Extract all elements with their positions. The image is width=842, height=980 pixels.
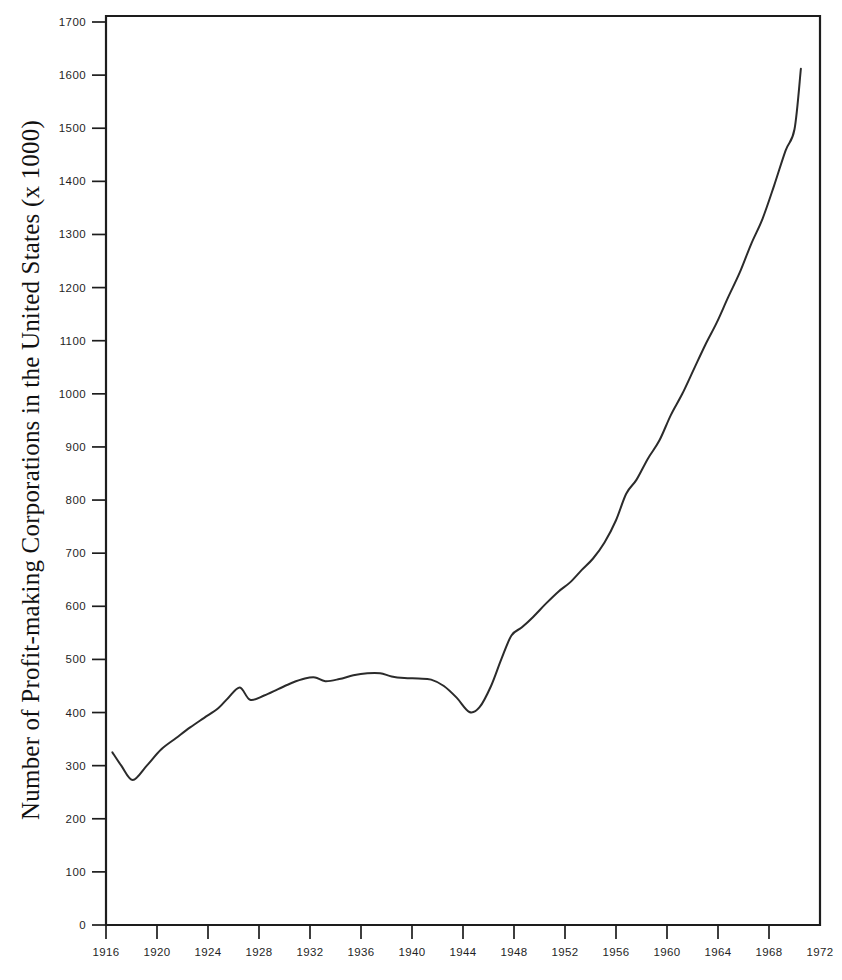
x-tick-label: 1920 [143, 946, 170, 958]
y-tick-label: 0 [79, 919, 86, 931]
x-tick-label: 1936 [347, 946, 374, 958]
x-tick-label: 1932 [296, 946, 323, 958]
x-tick-label: 1916 [92, 946, 119, 958]
y-tick-label: 1500 [59, 122, 86, 134]
x-tick-label: 1952 [551, 946, 578, 958]
y-tick-label: 1100 [60, 335, 86, 347]
x-tick-label: 1940 [398, 946, 425, 958]
y-tick-label: 1300 [59, 228, 86, 240]
x-tick-label: 1968 [755, 946, 782, 958]
x-tick-label: 1944 [449, 946, 476, 958]
data-line-profit-making-corporations [112, 69, 801, 780]
y-tick-label: 800 [66, 494, 86, 506]
y-tick-label: 400 [66, 707, 86, 719]
y-tick-label: 1000 [59, 388, 86, 400]
y-tick-label: 600 [66, 600, 86, 612]
y-tick-label: 900 [66, 441, 86, 453]
plot-frame [106, 16, 820, 925]
x-tick-label: 1948 [500, 946, 527, 958]
x-axis-ticks: 1916192019241928193219361940194419481952… [92, 925, 833, 958]
y-axis-title: Number of Profit-making Corporations in … [17, 120, 45, 820]
line-chart: Number of Profit-making Corporations in … [0, 0, 842, 980]
x-tick-label: 1964 [704, 946, 731, 958]
y-tick-label: 1600 [59, 69, 86, 81]
x-tick-label: 1956 [602, 946, 629, 958]
y-tick-label: 1200 [59, 282, 86, 294]
chart-figure: Number of Profit-making Corporations in … [0, 0, 842, 980]
x-tick-label: 1928 [245, 946, 272, 958]
y-tick-label: 700 [66, 547, 86, 559]
y-tick-label: 200 [66, 813, 86, 825]
x-tick-label: 1972 [806, 946, 833, 958]
y-tick-label: 300 [66, 760, 86, 772]
y-axis-ticks: 0100200300400500600700800900100011001200… [59, 16, 106, 931]
y-tick-label: 1700 [59, 16, 86, 28]
y-tick-label: 100 [66, 866, 86, 878]
y-tick-label: 500 [66, 653, 86, 665]
y-tick-label: 1400 [59, 175, 86, 187]
x-tick-label: 1924 [194, 946, 221, 958]
series-group [112, 69, 801, 780]
x-tick-label: 1960 [653, 946, 680, 958]
